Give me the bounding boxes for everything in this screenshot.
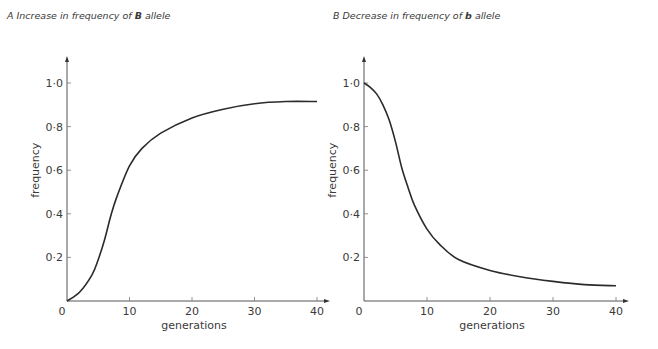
x-tick-label: 30 — [248, 305, 262, 318]
frequency-curve — [364, 83, 616, 286]
x-tick-label: 30 — [546, 305, 560, 318]
y-tick-label: 0·4 — [343, 208, 361, 221]
y-axis-label: frequency — [29, 142, 42, 198]
y-axis-arrow-icon — [362, 56, 366, 62]
y-axis-label: frequency — [326, 142, 339, 198]
x-axis-arrow-icon — [623, 299, 629, 303]
frequency-curve — [67, 101, 317, 301]
y-tick-label: 0·6 — [46, 164, 64, 177]
x-tick-label: 10 — [123, 305, 137, 318]
x-tick-label: 0 — [356, 305, 363, 318]
charts-canvas: 0102030400·20·40·60·81·0generationsfrequ… — [0, 0, 658, 349]
y-axis-arrow-icon — [65, 56, 69, 62]
y-tick-label: 0·8 — [343, 121, 361, 134]
y-tick-label: 1·0 — [46, 77, 64, 90]
x-axis-label: generations — [459, 319, 525, 332]
x-tick-label: 20 — [185, 305, 199, 318]
x-axis-arrow-icon — [324, 299, 330, 303]
chart-a: 0102030400·20·40·60·81·0generationsfrequ… — [29, 56, 330, 332]
y-tick-label: 0·8 — [46, 121, 64, 134]
x-tick-label: 10 — [420, 305, 434, 318]
y-tick-label: 0·6 — [343, 164, 361, 177]
y-tick-label: 1·0 — [343, 77, 361, 90]
x-tick-label: 20 — [483, 305, 497, 318]
x-axis-label: generations — [161, 319, 227, 332]
x-tick-label: 40 — [310, 305, 324, 318]
y-tick-label: 0·2 — [343, 251, 361, 264]
y-tick-label: 0·4 — [46, 208, 64, 221]
chart-b: 0102030400·20·40·60·81·0generationsfrequ… — [326, 56, 629, 332]
x-tick-label: 0 — [59, 305, 66, 318]
y-tick-label: 0·2 — [46, 251, 64, 264]
x-tick-label: 40 — [609, 305, 623, 318]
